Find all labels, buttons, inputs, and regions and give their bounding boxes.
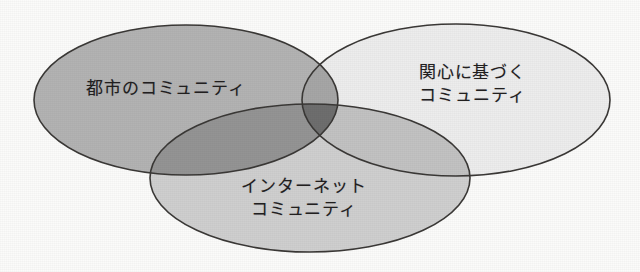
venn-label-interest-line-2: コミュニティ bbox=[385, 85, 560, 108]
venn-label-interest: 関心に基づく コミュニティ bbox=[385, 62, 560, 108]
venn-label-internet-line-2: コミュニティ bbox=[216, 199, 392, 222]
venn-label-internet-line-1: インターネット bbox=[216, 176, 392, 199]
venn-label-internet: インターネット コミュニティ bbox=[216, 176, 392, 222]
venn-diagram-svg bbox=[0, 0, 640, 272]
venn-label-urban: 都市のコミュニティ bbox=[60, 78, 272, 101]
venn-label-urban-line-1: 都市のコミュニティ bbox=[60, 78, 272, 101]
venn-diagram-page: 都市のコミュニティ 関心に基づく コミュニティ インターネット コミュニティ bbox=[0, 0, 640, 272]
venn-label-interest-line-1: 関心に基づく bbox=[385, 62, 560, 85]
